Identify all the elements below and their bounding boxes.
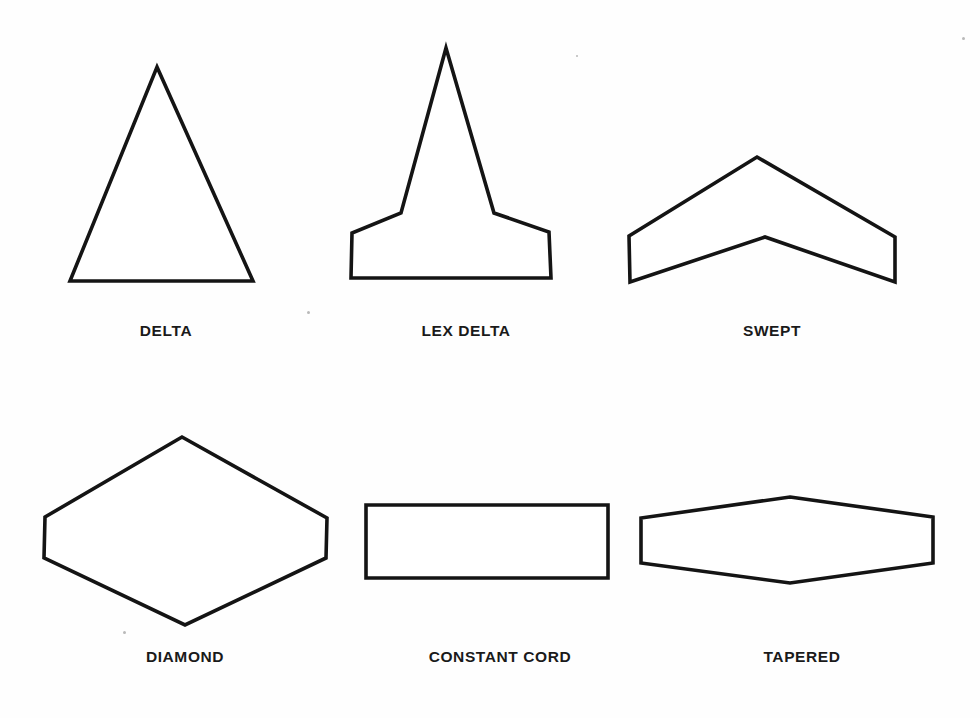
shape-group-delta [70, 67, 253, 281]
label-tapered: TAPERED [763, 648, 840, 666]
shape-group-swept [629, 157, 895, 282]
shape-diamond [44, 437, 327, 625]
scan-speck [962, 37, 965, 40]
label-swept: SWEPT [743, 322, 801, 340]
label-lex-delta: LEX DELTA [421, 322, 510, 340]
shape-delta [70, 67, 253, 281]
shape-group-tapered [641, 497, 933, 583]
shape-group-diamond [44, 437, 327, 625]
label-constant-cord: CONSTANT CORD [429, 648, 572, 666]
scan-speck [123, 631, 126, 634]
scan-speck [576, 55, 578, 57]
figure-canvas: DELTA LEX DELTA SWEPT DIAMOND CONSTANT C… [0, 0, 980, 718]
label-delta: DELTA [140, 322, 192, 340]
shape-group-lex-delta [351, 48, 551, 278]
shape-group-constant-cord [366, 505, 608, 578]
shape-swept [629, 157, 895, 282]
shape-lex-delta [351, 48, 551, 278]
scan-speck [307, 311, 310, 314]
planform-diagram [0, 0, 980, 718]
label-diamond: DIAMOND [146, 648, 224, 666]
shape-constant-cord [366, 505, 608, 578]
shape-tapered [641, 497, 933, 583]
